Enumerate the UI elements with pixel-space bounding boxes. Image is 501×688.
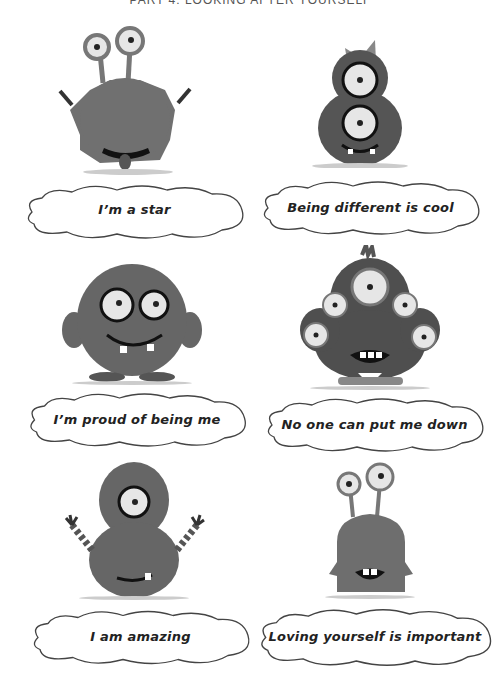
affirmation-text: Being different is cool (258, 200, 483, 215)
monster-illustration-1 (50, 25, 210, 175)
affirmation-cloud-6: Loving yourself is important (255, 605, 495, 670)
monster-illustration-4 (298, 245, 443, 390)
affirmation-cloud-2: Being different is cool (258, 178, 483, 238)
affirmation-cloud-1: I’m a star (22, 182, 247, 242)
monster-illustration-5 (62, 460, 207, 600)
page-header: PART 4: LOOKING AFTER YOURSELF (0, 0, 501, 7)
affirmation-text: I am amazing (28, 629, 253, 644)
affirmation-text: I’m a star (22, 202, 247, 217)
affirmation-text: Loving yourself is important (255, 629, 495, 644)
affirmation-text: No one can put me down (262, 417, 487, 432)
monster-illustration-6 (325, 462, 435, 602)
affirmation-text: I’m proud of being me (22, 412, 252, 427)
affirmation-cloud-4: No one can put me down (262, 395, 487, 455)
affirmation-cloud-5: I am amazing (28, 605, 253, 670)
monster-illustration-3 (62, 255, 202, 385)
affirmation-cloud-3: I’m proud of being me (22, 390, 252, 450)
monster-illustration-2 (310, 28, 410, 168)
